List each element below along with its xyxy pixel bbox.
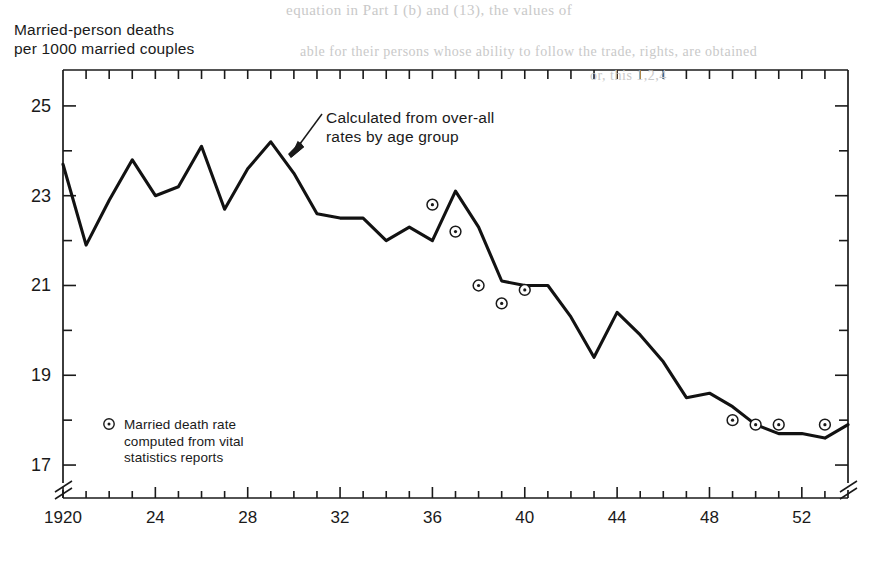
data-point-marker (496, 298, 507, 309)
y-tick-label-23: 23 (31, 186, 51, 206)
x-tick-label-28: 28 (238, 508, 257, 527)
legend-marker-icon (104, 419, 114, 429)
annotation-calculated-line-2: rates by age group (326, 127, 494, 146)
legend-label-line-1: Married death rate (124, 417, 244, 434)
series-markers-vital-statistics (427, 199, 830, 430)
bleed-through-text-3: or, this 1,2,4 (590, 68, 667, 84)
data-point-marker (519, 285, 530, 296)
bleed-through-text-2: able for their persons whose ability to … (300, 44, 757, 60)
y-axis-title-line-2: per 1000 married couples (14, 39, 195, 58)
data-point-marker (427, 199, 438, 210)
data-point-marker (750, 419, 761, 430)
annotation-calculated-line-1: Calculated from over-all (326, 108, 494, 127)
x-tick-label-44: 44 (608, 508, 627, 527)
legend-label-line-3: statistics reports (124, 450, 244, 467)
data-point-marker (473, 280, 484, 291)
x-tick-label-32: 32 (331, 508, 350, 527)
y-tick-label-17: 17 (31, 455, 51, 475)
x-tick-label-24: 24 (146, 508, 165, 527)
x-tick-label-1920: 1920 (44, 508, 82, 527)
y-axis-title: Married-person deaths per 1000 married c… (14, 20, 195, 58)
data-point-marker (450, 226, 461, 237)
plot-area: 192024283236404448521719212325 (0, 0, 889, 567)
bleed-through-text-1: equation in Part I (b) and (13), the val… (286, 2, 572, 19)
annotation-calculated-series: Calculated from over-all rates by age gr… (326, 108, 494, 146)
annotation-arrow (289, 114, 322, 157)
series-line-calculated (63, 142, 848, 438)
data-point-marker (773, 419, 784, 430)
chart-figure: equation in Part I (b) and (13), the val… (0, 0, 889, 567)
x-tick-label-48: 48 (700, 508, 719, 527)
x-tick-label-36: 36 (423, 508, 442, 527)
data-point-marker (727, 415, 738, 426)
legend-label: Married death rate computed from vital s… (124, 417, 244, 467)
y-tick-label-25: 25 (31, 96, 51, 116)
data-point-marker (820, 419, 831, 430)
y-axis-title-line-1: Married-person deaths (14, 20, 195, 39)
y-tick-label-19: 19 (31, 365, 51, 385)
legend-label-line-2: computed from vital (124, 434, 244, 451)
x-tick-label-40: 40 (515, 508, 534, 527)
y-tick-label-21: 21 (31, 275, 51, 295)
x-tick-label-52: 52 (792, 508, 811, 527)
